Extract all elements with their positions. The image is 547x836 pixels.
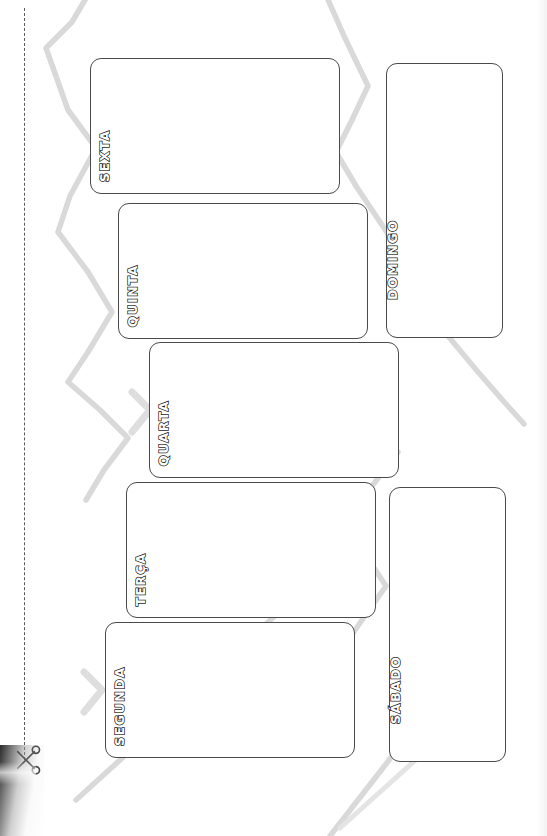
day-card-terca[interactable] <box>126 482 376 618</box>
day-label-sabado: SÁBADO <box>390 656 403 724</box>
day-label-sexta: SEXTA <box>99 130 112 182</box>
page-title: MINHA SEMANA: <box>44 222 84 492</box>
day-card-quinta[interactable] <box>118 203 368 339</box>
day-label-segunda: SEGUNDA <box>114 666 127 746</box>
day-card-sexta[interactable] <box>90 58 340 194</box>
worksheet-page: MINHA SEMANA: SEGUNDA TERÇA QUARTA QUINT… <box>0 0 547 836</box>
day-label-terca: TERÇA <box>135 552 148 606</box>
dashed-cut-line <box>24 8 25 760</box>
day-label-quarta: QUARTA <box>158 400 171 466</box>
day-card-quarta[interactable] <box>149 342 399 478</box>
day-label-domingo: DOMINGO <box>387 219 400 300</box>
day-card-segunda[interactable] <box>105 622 355 758</box>
scissors-icon <box>8 742 44 778</box>
day-card-sabado[interactable] <box>389 487 506 762</box>
day-card-domingo[interactable] <box>386 63 503 338</box>
day-label-quinta: QUINTA <box>127 264 140 327</box>
page-edge-shading <box>537 0 547 836</box>
